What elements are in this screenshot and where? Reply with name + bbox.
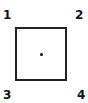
center-dot [40, 53, 43, 56]
corner-label-4: 4 [77, 89, 85, 101]
corner-label-1: 1 [3, 9, 11, 21]
corner-label-2: 2 [75, 9, 83, 21]
corner-label-3: 3 [3, 89, 11, 101]
